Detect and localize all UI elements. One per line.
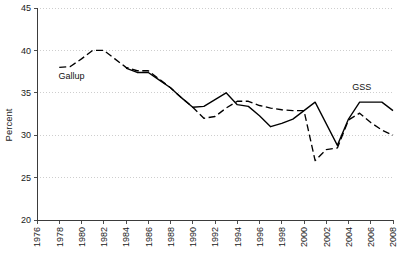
y-tick-label-35: 35 [21,88,31,98]
y-tick-label-45: 45 [21,3,31,13]
x-tick-label-1996: 1996 [255,227,265,247]
x-tick-label-1982: 1982 [99,227,109,247]
x-tick-label-1986: 1986 [144,227,154,247]
series-line-gss [126,68,393,145]
x-tick-label-2008: 2008 [388,227,398,247]
gridlines [37,8,393,178]
x-axis: 1976197819801982198419861988199019921994… [32,220,398,247]
x-tick-label-1978: 1978 [55,227,65,247]
y-tick-label-20: 20 [21,215,31,225]
y-axis-title: Percent [3,108,14,141]
x-tick-label-1994: 1994 [233,227,243,247]
x-tick-label-1998: 1998 [277,227,287,247]
line-chart: 202530354045 197619781980198219841986198… [0,0,403,265]
x-tick-label-2006: 2006 [366,227,376,247]
series-annotations: GallupGSS [58,71,371,92]
series-label-gss: GSS [352,82,371,92]
x-tick-label-1980: 1980 [77,227,87,247]
series-label-gallup: Gallup [58,71,84,81]
y-axis: 202530354045 [21,3,37,225]
x-tick-label-1990: 1990 [188,227,198,247]
y-tick-label-30: 30 [21,130,31,140]
chart-container: 202530354045 197619781980198219841986198… [0,0,403,265]
x-tick-label-1984: 1984 [121,227,131,247]
x-tick-label-2000: 2000 [299,227,309,247]
x-tick-label-2002: 2002 [322,227,332,247]
x-tick-label-2004: 2004 [344,227,354,247]
y-tick-label-25: 25 [21,173,31,183]
x-tick-label-1992: 1992 [210,227,220,247]
x-tick-label-1988: 1988 [166,227,176,247]
series-lines [59,50,393,160]
series-line-gallup [59,50,393,160]
y-tick-label-40: 40 [21,46,31,56]
x-tick-label-1976: 1976 [32,227,42,247]
